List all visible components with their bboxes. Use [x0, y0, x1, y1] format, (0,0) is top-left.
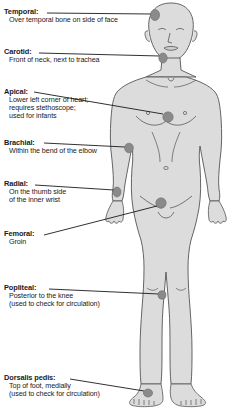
callout-apical: Apical: Lower left corner of heart; requ…	[4, 88, 88, 120]
callout-temporal: Temporal: Over temporal bone on side of …	[4, 8, 118, 24]
callout-desc-dorsalis-pedis-line-1: (used to check for circulation)	[4, 390, 100, 398]
pulse-marker-dorsalis-pedis	[143, 389, 152, 397]
callout-carotid: Carotid: Front of neck, next to trachea	[4, 48, 100, 64]
pulse-marker-radial	[113, 187, 121, 197]
callout-desc-carotid-line-0: Front of neck, next to trachea	[4, 56, 100, 64]
callout-desc-femoral-line-0: Groin	[4, 238, 34, 246]
callout-brachial: Brachial: Within the bend of the elbow	[4, 139, 97, 155]
pulse-marker-apical	[163, 112, 173, 122]
pulse-marker-temporal	[150, 9, 159, 20]
callout-desc-brachial-line-0: Within the bend of the elbow	[4, 147, 97, 155]
pulse-points-diagram: Temporal: Over temporal bone on side of …	[0, 0, 236, 416]
callout-desc-radial-line-1: of the inner wrist	[4, 196, 66, 204]
callout-desc-apical-line-2: used for infants	[4, 112, 88, 120]
pulse-marker-brachial	[125, 143, 134, 153]
pulse-marker-carotid	[159, 53, 167, 63]
callout-radial: Radial: On the thumb side of the inner w…	[4, 180, 66, 204]
callout-desc-popliteal-line-1: (used to check for circulation)	[4, 300, 100, 308]
callout-desc-temporal-line-0: Over temporal bone on side of face	[4, 16, 118, 24]
callout-popliteal: Popliteal: Posterior to the knee (used t…	[4, 284, 100, 308]
callout-dorsalis-pedis: Dorsalis pedis: Top of foot, medially (u…	[4, 374, 100, 398]
callout-femoral: Femoral: Groin	[4, 230, 34, 246]
pulse-marker-popliteal	[158, 291, 166, 299]
pulse-marker-femoral	[156, 198, 166, 208]
